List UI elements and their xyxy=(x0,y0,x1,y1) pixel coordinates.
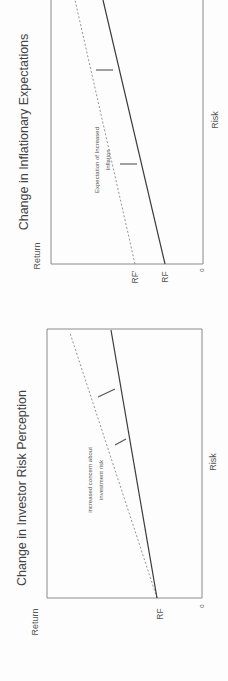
risk-annotation-line: increased concern about xyxy=(87,447,93,513)
risk-shift-marker xyxy=(115,439,126,445)
inflation-y-axis-label: Return xyxy=(32,242,42,269)
inflation-origin-label: 0 xyxy=(199,268,205,272)
inflation-shifted-sml-line xyxy=(75,0,135,264)
inflation-rf-label: RF' xyxy=(130,270,140,283)
risk-x-axis-label: Risk xyxy=(208,453,218,471)
risk-original-sml-line xyxy=(111,330,157,598)
risk-shift-marker xyxy=(98,389,115,397)
diagram-canvas: Change in Inflationary ExpectationsRetur… xyxy=(0,0,228,681)
risk-title: Change in Investor Risk Perception xyxy=(15,390,29,586)
risk-origin-label: 0 xyxy=(199,604,205,608)
inflation-x-axis-label: Risk xyxy=(210,111,220,129)
risk-annotation-line: investment risk xyxy=(98,459,104,500)
risk-shifted-sml-line xyxy=(70,333,157,598)
inflation-annotation-line: Inflation xyxy=(105,149,111,170)
inflation-annotation-line: Expectation of Increased xyxy=(94,127,100,193)
page: Change in Inflationary ExpectationsRetur… xyxy=(0,0,228,681)
inflation-rf-label: RF xyxy=(160,271,170,282)
risk-rf-label: RF xyxy=(155,608,165,619)
inflation-title: Change in Inflationary Expectations xyxy=(17,34,31,231)
risk-y-axis-label: Return xyxy=(30,608,40,635)
inflation-original-sml-line xyxy=(103,0,165,264)
